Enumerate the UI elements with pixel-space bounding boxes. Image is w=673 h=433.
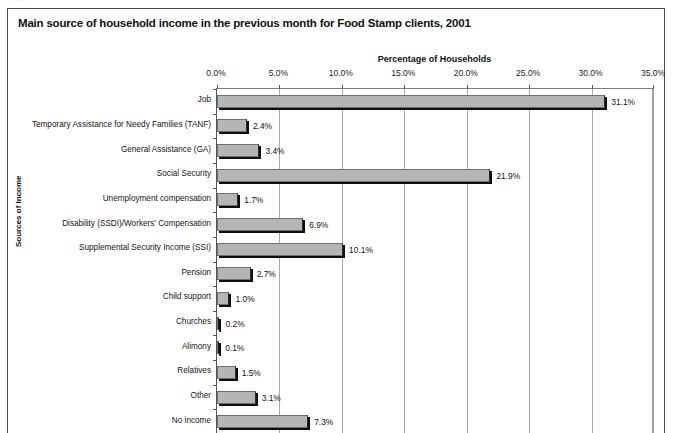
bar-row: 0.2% [217,317,652,330]
gridline [279,89,280,433]
x-axis-tick-labels: 0.0%5.0%10.0%15.0%20.0%25.0%30.0%35.0% [216,68,653,80]
bar-row: 3.1% [217,391,652,404]
bar-8[interactable] [217,267,251,280]
y-axis-category-labels: JobTemporary Assistance for Needy Famili… [0,88,211,433]
category-label: Churches [176,317,211,327]
bar-value-label: 31.1% [611,98,635,106]
bar-row: 10.1% [217,243,652,256]
bar-value-label: 2.4% [253,122,272,130]
y-tick-mark [213,212,217,213]
y-tick-mark [213,360,217,361]
x-tick-mark [217,85,218,89]
gridline [467,89,468,433]
category-label: Job [198,95,211,105]
bar-value-label: 1.5% [242,369,261,377]
category-label: Unemployment compensation [103,194,211,204]
x-axis-title: Percentage of Households [216,54,653,64]
x-tick-label: 35.0% [641,68,665,78]
category-label: Child support [163,292,211,302]
bar-1[interactable] [217,95,605,108]
category-label: Disability (SSDI)/Workers' Compensation [62,219,211,229]
bar-13[interactable] [217,391,256,404]
bar-value-label: 10.1% [349,246,373,254]
bar-10[interactable] [217,317,219,330]
bar-5[interactable] [217,193,238,206]
bar-2[interactable] [217,119,247,132]
bar-row: 31.1% [217,95,652,108]
y-tick-mark [213,409,217,410]
bar-value-label: 7.3% [314,418,333,426]
bar-row: 1.0% [217,292,652,305]
category-label: Alimony [182,342,211,352]
bar-row: 2.7% [217,267,652,280]
chart-title: Main source of household income in the p… [18,17,471,29]
bar-3[interactable] [217,144,259,157]
category-label: General Assistance (GA) [121,145,211,155]
x-tick-label: 30.0% [579,68,603,78]
y-tick-mark [213,114,217,115]
y-tick-mark [213,262,217,263]
gridline [592,89,593,433]
bar-value-label: 1.0% [235,295,254,303]
gridline [529,89,530,433]
bar-row: 2.4% [217,119,652,132]
bar-9[interactable] [217,292,229,305]
y-tick-mark [213,311,217,312]
category-label: Social Security [157,169,211,179]
bar-value-label: 21.9% [496,172,520,180]
plot-area: 31.1%2.4%3.4%21.9%1.7%6.9%10.1%2.7%1.0%0… [216,88,653,433]
x-tick-label: 0.0% [206,68,225,78]
page-remnant-text: · · · · [10,0,28,4]
bar-6[interactable] [217,218,303,231]
gridline [342,89,343,433]
bar-4[interactable] [217,169,490,182]
bar-12[interactable] [217,366,236,379]
category-label: Supplemental Security Income (SSI) [79,243,211,253]
x-tick-label: 5.0% [269,68,288,78]
category-label: Temporary Assistance for Needy Families … [32,120,211,130]
bar-row: 1.5% [217,366,652,379]
y-tick-mark [213,286,217,287]
y-tick-mark [213,188,217,189]
bar-value-label: 2.7% [257,270,276,278]
bar-value-label: 6.9% [309,221,328,229]
y-tick-mark [213,138,217,139]
bar-14[interactable] [217,415,308,428]
x-tick-label: 10.0% [329,68,353,78]
bar-row: 21.9% [217,169,652,182]
gridline [404,89,405,433]
y-tick-mark [213,385,217,386]
bar-row: 1.7% [217,193,652,206]
bar-value-label: 3.4% [265,147,284,155]
y-tick-mark [213,237,217,238]
x-tick-label: 15.0% [391,68,415,78]
bar-row: 7.3% [217,415,652,428]
y-tick-mark [213,335,217,336]
bar-value-label: 0.2% [225,320,244,328]
category-label: Other [191,391,211,401]
y-tick-mark [213,163,217,164]
x-tick-label: 25.0% [516,68,540,78]
bar-row: 6.9% [217,218,652,231]
category-label: Pension [181,268,211,278]
bar-value-label: 3.1% [262,394,281,402]
bar-row: 0.1% [217,341,652,354]
bar-11[interactable] [217,341,219,354]
y-tick-mark [213,89,217,90]
bar-7[interactable] [217,243,343,256]
chart-screenshot: · · · · Main source of household income … [0,0,673,433]
bar-value-label: 0.1% [225,344,244,352]
bar-value-label: 1.7% [244,196,263,204]
category-label: No income [172,416,211,426]
gridline [653,89,654,433]
category-label: Relatives [177,366,211,376]
bar-row: 3.4% [217,144,652,157]
x-tick-label: 20.0% [454,68,478,78]
